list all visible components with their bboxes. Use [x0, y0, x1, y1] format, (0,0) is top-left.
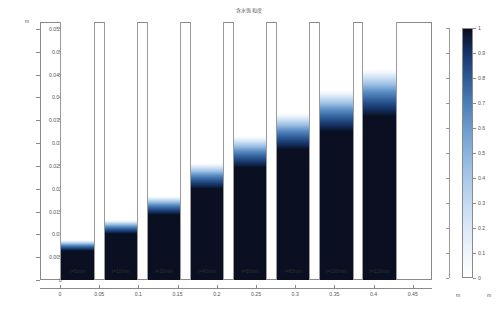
wetting-front-gradient — [148, 196, 180, 215]
colorbar-tick-mark — [473, 203, 476, 204]
colorbar-axis-tick-mark — [446, 203, 449, 204]
colorbar-tick-mark — [473, 253, 476, 254]
colorbar-tick-mark — [473, 78, 476, 79]
colorbar-tick-label: 0.2 — [478, 225, 485, 231]
saturation-column — [233, 22, 267, 280]
colorbar-tick-label: 0.6 — [478, 125, 485, 131]
x-axis-tick-mark — [138, 285, 139, 288]
x-axis-tick-label: 0 — [59, 291, 62, 297]
wetting-front-gradient — [105, 220, 137, 234]
saturation-fill — [277, 117, 309, 280]
x-axis-tick-label: 0.15 — [173, 291, 183, 297]
saturated-zone — [320, 132, 352, 280]
column-time-label: t=80min — [284, 268, 302, 274]
x-axis-tick-label: 0.2 — [213, 291, 220, 297]
colorbar-tick-mark — [473, 28, 476, 29]
y-axis-tick-mark — [36, 234, 40, 235]
colorbar-axis-tick-mark — [446, 153, 449, 154]
y-axis-tick-mark — [36, 212, 40, 213]
colorbar-tick-mark — [473, 178, 476, 179]
wetting-front-gradient — [61, 240, 93, 251]
y-axis-tick-mark — [36, 189, 40, 190]
saturation-column — [276, 22, 310, 280]
y-axis-unit-label: m — [25, 18, 29, 24]
saturation-fill — [234, 139, 266, 280]
saturation-column — [147, 22, 181, 280]
colorbar-tick-label: 0.9 — [478, 50, 485, 56]
colorbar-axis-tick-mark — [446, 253, 449, 254]
x-axis-tick-mark — [178, 285, 179, 288]
colorbar-axis-tick-mark — [446, 278, 449, 279]
wetting-front-gradient — [234, 136, 266, 168]
colorbar-axis-tick-mark — [446, 228, 449, 229]
x-axis-tick-label: 0.45 — [408, 291, 418, 297]
y-axis-tick-mark — [36, 97, 40, 98]
saturation-fill — [320, 94, 352, 280]
column-time-label: t=10min — [112, 268, 130, 274]
colorbar-axis-tick-mark — [446, 128, 449, 129]
colorbar-tick-label: 0.3 — [478, 200, 485, 206]
chart-title: 含水饱和度 — [0, 6, 498, 13]
colorbar-tick-label: 0.5 — [478, 150, 485, 156]
colorbar-axis-tick-mark — [446, 78, 449, 79]
colorbar-tick-mark — [473, 53, 476, 54]
x-axis-tick-mark — [295, 285, 296, 288]
x-axis-tick-label: 0.25 — [251, 291, 261, 297]
y-axis-tick-mark — [36, 52, 40, 53]
saturation-fill — [363, 74, 395, 280]
saturation-column — [362, 22, 396, 280]
saturated-zone — [234, 168, 266, 280]
x-axis-tick-mark — [256, 285, 257, 288]
colorbar-tick-mark — [473, 128, 476, 129]
column-time-label: t=40min — [198, 268, 216, 274]
colorbar-tick-label: 0.4 — [478, 175, 485, 181]
x-axis-tick-label: 0.35 — [329, 291, 339, 297]
x-axis-tick-label: 0.1 — [135, 291, 142, 297]
x-axis-tick-mark — [60, 285, 61, 288]
colorbar-tick-mark — [473, 278, 476, 279]
colorbar-tick-label: 0.7 — [478, 100, 485, 106]
x-axis-tick-mark — [413, 285, 414, 288]
colorbar-tick-label: 0.1 — [478, 250, 485, 256]
x-axis-unit-label: m — [456, 292, 460, 298]
y-axis-tick-mark — [36, 143, 40, 144]
y-axis-tick-mark — [36, 120, 40, 121]
wetting-front-gradient — [191, 163, 223, 189]
saturated-zone — [61, 251, 93, 280]
y-axis-tick-mark — [36, 257, 40, 258]
saturated-zone — [363, 117, 395, 280]
wetting-front-gradient — [363, 69, 395, 117]
saturation-column — [104, 22, 138, 280]
figure-canvas: 含水饱和度 m m m 00.0050.010.0150.020.0250.03… — [0, 0, 498, 311]
colorbar-tick-label: 0 — [478, 275, 481, 281]
column-time-label: t=20min — [155, 268, 173, 274]
colorbar-axis-tick-mark — [446, 178, 449, 179]
saturated-zone — [277, 150, 309, 280]
column-time-label: t=120min — [369, 268, 390, 274]
saturation-column — [190, 22, 224, 280]
colorbar-tick-mark — [473, 228, 476, 229]
saturation-column — [60, 22, 94, 280]
x-axis-line — [40, 288, 432, 289]
saturation-fill — [61, 241, 93, 280]
colorbar-tick-label: 1 — [478, 25, 481, 31]
wetting-front-gradient — [320, 90, 352, 132]
x-axis-tick-mark — [334, 285, 335, 288]
x-axis-tick-mark — [374, 285, 375, 288]
x-axis-tick-label: 0.3 — [292, 291, 299, 297]
column-time-label: t=60min — [241, 268, 259, 274]
colorbar-axis-tick-mark — [446, 53, 449, 54]
colorbar-gradient — [463, 29, 472, 277]
wetting-front-gradient — [277, 113, 309, 150]
x-axis-tick-mark — [99, 285, 100, 288]
colorbar-axis-line — [449, 28, 450, 278]
x-axis-tick-label: 0.4 — [370, 291, 377, 297]
y-axis-tick-mark — [36, 280, 40, 281]
colorbar-tick-mark — [473, 103, 476, 104]
saturation-fill — [191, 166, 223, 280]
y-axis-tick-mark — [36, 29, 40, 30]
colorbar-unit-label: m — [487, 292, 491, 298]
colorbar-tick-mark — [473, 153, 476, 154]
colorbar-axis-tick-mark — [446, 103, 449, 104]
colorbar — [462, 28, 473, 278]
